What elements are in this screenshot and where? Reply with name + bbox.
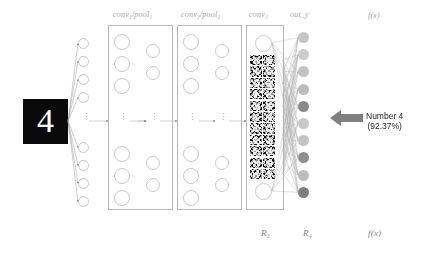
- input-node: [78, 74, 89, 85]
- input-node: [78, 56, 89, 67]
- conv1-feature-node: [114, 78, 130, 94]
- conv3-feature-map: [250, 169, 262, 179]
- output-node-2: [298, 66, 309, 77]
- conv3-feature-map: [263, 123, 275, 133]
- conv3-feature-map: [263, 66, 275, 76]
- pool2-ellipsis: ⋮: [219, 113, 228, 122]
- conv3-feature-map: [263, 55, 275, 65]
- conv3-node-bottom: [255, 183, 272, 200]
- pool2-feature-node: [215, 44, 229, 58]
- conv3-feature-map: [263, 146, 275, 156]
- output-node-7: [298, 152, 309, 163]
- output-node-6: [298, 135, 309, 146]
- conv1-ellipsis: ⋮: [119, 113, 128, 122]
- layer-label-fx-top: f(x): [368, 11, 380, 20]
- conv2-feature-node: [183, 146, 199, 162]
- conv3-feature-map: [263, 135, 275, 145]
- pool1-ellipsis: ⋮: [150, 113, 159, 122]
- conv3-feature-map: [250, 123, 262, 133]
- layer-label-conv1-pool1: conv₁/pool₁: [113, 10, 152, 19]
- callout-line-1: Number 4: [366, 111, 403, 121]
- pool1-feature-node: [146, 44, 160, 58]
- conv3-feature-map: [250, 78, 262, 88]
- conv2-feature-node: [183, 56, 199, 72]
- pool2-feature-node: [215, 156, 229, 170]
- pool2-feature-node: [215, 66, 229, 80]
- conv1-feature-node: [114, 34, 130, 50]
- diagram-canvas: conv₁/pool₁ conv₂/pool₂ conv₃ out_y f(x)…: [0, 0, 432, 255]
- input-layer-ellipsis: ⋮: [82, 113, 91, 122]
- conv3-feature-map: [250, 89, 262, 99]
- conv3-feature-map: [263, 158, 275, 168]
- callout-block-arrow: [330, 110, 363, 126]
- pool2-feature-node: [215, 178, 229, 192]
- input-node: [78, 196, 89, 207]
- layer-label-conv2-pool2: conv₂/pool₂: [181, 10, 220, 19]
- bottom-label-r4: R₄: [303, 228, 312, 238]
- input-node: [78, 178, 89, 189]
- bottom-label-r3: R₃: [261, 228, 270, 238]
- conv1-feature-node: [114, 146, 130, 162]
- bottom-label-fx: f(x): [368, 228, 381, 238]
- conv3-feature-map: [250, 55, 262, 65]
- conv3-feature-map: [250, 112, 262, 122]
- conv3-feature-map: [263, 101, 275, 111]
- output-node-9: [298, 187, 309, 198]
- layer-label-conv3: conv₃: [249, 10, 268, 19]
- conv2-feature-node: [183, 190, 199, 206]
- output-node-1: [298, 49, 309, 60]
- layer-label-out-y: out_y: [290, 10, 309, 19]
- input-node: [78, 92, 89, 103]
- conv1-feature-node: [114, 56, 130, 72]
- input-digit-image: 4: [23, 99, 68, 144]
- pool1-feature-node: [146, 156, 160, 170]
- conv1-feature-node: [114, 190, 130, 206]
- conv3-feature-map: [250, 146, 262, 156]
- input-digit-glyph: 4: [23, 104, 68, 138]
- conv1-feature-node: [114, 168, 130, 184]
- callout-line-2: (92.37%): [366, 121, 403, 131]
- output-node-4: [298, 101, 309, 112]
- input-node: [78, 160, 89, 171]
- conv2-feature-node: [183, 34, 199, 50]
- conv3-feature-map: [263, 112, 275, 122]
- conv3-feature-map: [250, 66, 262, 76]
- conv3-feature-map: [250, 101, 262, 111]
- conv3-node-top: [255, 35, 272, 52]
- pool1-feature-node: [146, 178, 160, 192]
- input-node: [78, 38, 89, 49]
- conv3-feature-map: [250, 158, 262, 168]
- conv3-feature-map: [263, 169, 275, 179]
- output-node-8: [298, 170, 309, 181]
- conv3-feature-map: [250, 135, 262, 145]
- conv2-feature-node: [183, 168, 199, 184]
- conv2-feature-node: [183, 78, 199, 94]
- conv3-feature-map: [263, 78, 275, 88]
- conv3-feature-map: [263, 89, 275, 99]
- callout-text: Number 4 (92.37%): [366, 111, 403, 131]
- output-node-3: [298, 84, 309, 95]
- input-node: [78, 142, 89, 153]
- pool1-feature-node: [146, 66, 160, 80]
- output-node-0: [298, 32, 309, 43]
- output-node-5: [298, 118, 309, 129]
- conv2-ellipsis: ⋮: [188, 113, 197, 122]
